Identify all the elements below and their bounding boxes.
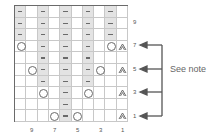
see-note-label: See note [170,64,206,74]
